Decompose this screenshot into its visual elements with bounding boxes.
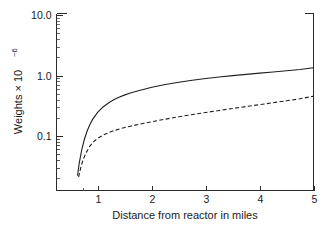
series-dashed-curve (79, 96, 314, 177)
x-axis-major-ticks (84, 186, 315, 191)
y-axis-title-text: Weights × 10 (12, 70, 24, 134)
series-solid-curve (78, 68, 314, 176)
x-tick-label: 5 (312, 193, 318, 205)
y-axis-minor-ticks (57, 19, 61, 179)
y-tick-label: 1.0 (37, 70, 52, 82)
chart-page: 0.11.010.0 12345 Weights × 10 −6 Distanc… (0, 0, 336, 232)
y-axis-title: Weights × 10 −6 (10, 48, 24, 134)
y-axis-tick-labels: 0.11.010.0 (31, 9, 52, 142)
weights-vs-distance-chart: 0.11.010.0 12345 Weights × 10 −6 Distanc… (0, 0, 336, 232)
x-tick-label: 1 (96, 193, 102, 205)
y-axis-title-exponent: −6 (10, 48, 19, 57)
x-axis-tick-labels: 12345 (96, 193, 318, 205)
x-tick-label: 3 (204, 193, 210, 205)
x-tick-label: 4 (258, 193, 264, 205)
x-axis-title: Distance from reactor in miles (112, 209, 258, 221)
y-tick-label: 10.0 (31, 9, 52, 21)
y-tick-label: 0.1 (37, 130, 52, 142)
x-tick-label: 2 (150, 193, 156, 205)
